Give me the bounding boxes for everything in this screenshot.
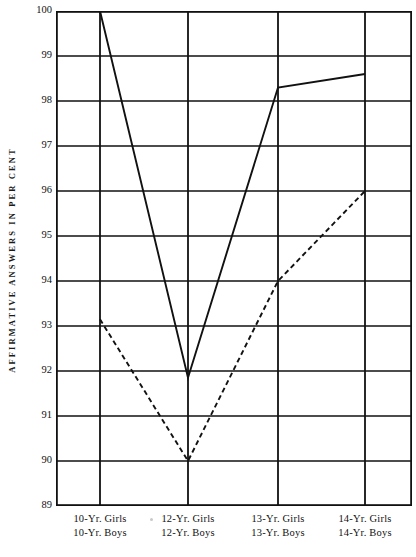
x-tick-label-group: 13-Yr. Girls13-Yr. Boys bbox=[251, 512, 305, 540]
x-tick-label-boys: 10-Yr. Boys bbox=[73, 526, 127, 540]
x-tick-label-girls: 14-Yr. Girls bbox=[338, 512, 392, 526]
x-axis-tick-labels: 10-Yr. Girls10-Yr. Boys12-Yr. Girls12-Yr… bbox=[0, 512, 416, 557]
y-tick-label: 94 bbox=[6, 275, 52, 286]
y-tick-label: 93 bbox=[6, 320, 52, 331]
y-tick-label: 100 bbox=[6, 5, 52, 16]
x-tick-label-boys: 12-Yr. Boys bbox=[161, 526, 215, 540]
x-tick-label-group: 14-Yr. Girls14-Yr. Boys bbox=[338, 512, 392, 540]
y-tick-label: 89 bbox=[6, 500, 52, 511]
x-tick-label-group: 10-Yr. Girls10-Yr. Boys bbox=[73, 512, 127, 540]
stray-speck bbox=[150, 518, 153, 521]
y-tick-label: 96 bbox=[6, 185, 52, 196]
x-tick-label-girls: 10-Yr. Girls bbox=[73, 512, 127, 526]
plot-area bbox=[56, 11, 412, 506]
x-tick-label-group: 12-Yr. Girls12-Yr. Boys bbox=[161, 512, 215, 540]
horizontal-gridlines bbox=[56, 56, 412, 461]
x-tick-label-girls: 12-Yr. Girls bbox=[161, 512, 215, 526]
series-line-girls bbox=[100, 11, 365, 378]
y-tick-label: 92 bbox=[6, 365, 52, 376]
y-tick-label: 98 bbox=[6, 95, 52, 106]
plot-border bbox=[57, 12, 411, 505]
x-tick-label-boys: 14-Yr. Boys bbox=[338, 526, 392, 540]
y-tick-label: 95 bbox=[6, 230, 52, 241]
vertical-gridlines bbox=[100, 11, 365, 506]
y-tick-label: 90 bbox=[6, 455, 52, 466]
x-tick-label-boys: 13-Yr. Boys bbox=[251, 526, 305, 540]
y-tick-label: 99 bbox=[6, 50, 52, 61]
x-tick-label-girls: 13-Yr. Girls bbox=[251, 512, 305, 526]
y-tick-label: 97 bbox=[6, 140, 52, 151]
y-axis-tick-labels: 1009998979695949392919089 bbox=[0, 0, 52, 557]
plot-svg bbox=[56, 11, 412, 506]
y-tick-label: 91 bbox=[6, 410, 52, 421]
chart-figure: AFFIRMATIVE ANSWERS IN PER CENT 10099989… bbox=[0, 0, 416, 557]
